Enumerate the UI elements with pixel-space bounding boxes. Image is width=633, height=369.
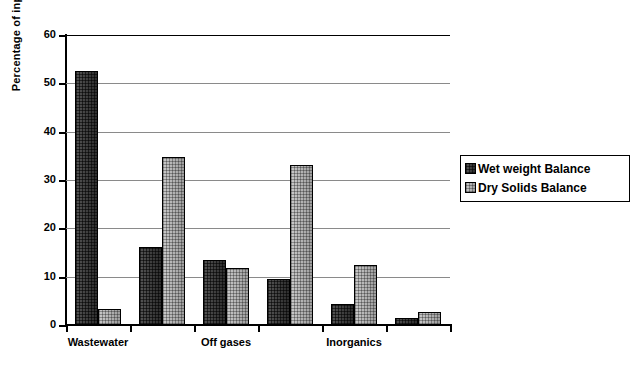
bar [98, 309, 121, 325]
x-tick [450, 324, 452, 332]
bar [354, 265, 377, 325]
bar [139, 247, 162, 325]
bar [203, 260, 226, 325]
y-tick [59, 277, 66, 279]
gridline [66, 180, 450, 181]
bar [267, 279, 290, 325]
x-tick [322, 324, 324, 332]
x-tick [130, 324, 132, 332]
legend-swatch-dry-solids-balance [465, 182, 476, 193]
y-tick-label: 0 [14, 319, 56, 330]
plot-area [66, 35, 450, 325]
bar [395, 318, 418, 325]
legend-item: Dry Solids Balance [465, 178, 625, 197]
y-tick [59, 83, 66, 85]
y-tick [59, 228, 66, 230]
y-tick-label: 60 [14, 29, 56, 40]
chart-figure: Percentage of input 0102030405060 Wastew… [0, 0, 633, 369]
y-tick [59, 132, 66, 134]
x-tick [386, 324, 388, 332]
x-axis-label: Wastewater [34, 336, 162, 348]
bar [162, 157, 185, 325]
gridline [66, 35, 450, 36]
chart-legend: Wet weight Balance Dry Solids Balance [460, 155, 630, 202]
x-tick [194, 324, 196, 332]
gridline [66, 277, 450, 278]
y-tick [59, 180, 66, 182]
y-tick-label: 30 [14, 174, 56, 185]
gridline [66, 83, 450, 84]
y-tick-label: 40 [14, 126, 56, 137]
x-axis-label: Inorganics [290, 336, 418, 348]
legend-item: Wet weight Balance [465, 159, 625, 178]
y-tick [59, 325, 66, 327]
y-tick [59, 35, 66, 37]
y-tick-label: 10 [14, 271, 56, 282]
y-tick-label: 20 [14, 222, 56, 233]
bar [418, 312, 441, 325]
legend-label: Wet weight Balance [478, 163, 590, 175]
bar [226, 268, 249, 325]
x-tick [258, 324, 260, 332]
gridline [66, 228, 450, 229]
bar [75, 71, 98, 325]
legend-swatch-wet-weight-balance [465, 163, 476, 174]
legend-label: Dry Solids Balance [478, 182, 587, 194]
y-axis-title: Percentage of input [10, 0, 22, 118]
x-tick [66, 324, 68, 332]
bar [331, 304, 354, 325]
y-tick-label: 50 [14, 77, 56, 88]
gridline [66, 132, 450, 133]
x-axis-label: Off gases [162, 336, 290, 348]
bar [290, 165, 313, 325]
